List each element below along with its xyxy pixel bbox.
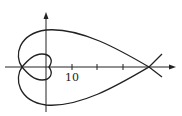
polar-curve-plot: 10: [0, 0, 182, 116]
y-axis-arrow-icon: [44, 12, 49, 19]
curve-tail-upper: [149, 54, 162, 67]
x-tick-label: 10: [65, 71, 79, 84]
curve-tail-lower: [149, 67, 162, 77]
x-axis-arrow-icon: [169, 65, 176, 70]
